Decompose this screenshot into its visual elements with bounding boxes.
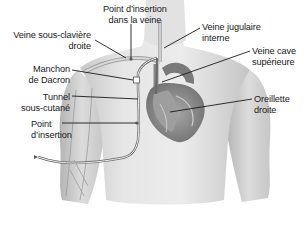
dacron-cuff-marker	[134, 77, 140, 83]
catheter-connector	[34, 155, 38, 159]
label-insertion-point-vein: Point d’insertion dans la veine	[103, 4, 167, 25]
label-right-subclavian-vein: Veine sous-clavière droite	[8, 30, 91, 51]
label-dacron-cuff: Manchon de Dacron	[8, 64, 70, 85]
label-insertion-point: Point d’insertion	[31, 119, 72, 140]
label-internal-jugular-vein: Veine jugulaire interne	[202, 22, 261, 43]
label-superior-vena-cava: Veine cave supérieure	[252, 46, 296, 67]
diagram-canvas: Point d’insertion dans la veine Veine so…	[0, 0, 307, 231]
label-right-atrium: Oreillette droite	[254, 94, 290, 115]
label-subcutaneous-tunnel: Tunnel sous-cutané	[8, 92, 70, 113]
